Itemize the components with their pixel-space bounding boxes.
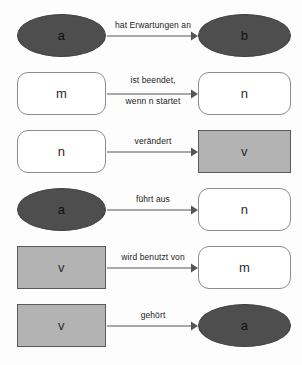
relationship-arrow: gehört [107, 300, 199, 358]
relationship-arrow: ist beendet,wenn n startet [107, 68, 199, 126]
node-label: b [241, 29, 249, 42]
actor-node-target[interactable]: b [198, 14, 291, 57]
relationship-row: mnist beendet,wenn n startet [0, 68, 302, 126]
node-label: a [58, 203, 66, 216]
data-node-target[interactable]: v [198, 130, 291, 173]
node-label: n [241, 203, 249, 216]
relationship-arrow: wird benutzt von [107, 242, 199, 300]
edge-label: führt aus [99, 194, 207, 204]
process-node-target[interactable]: m [198, 246, 291, 289]
edge-label: gehört [99, 310, 207, 320]
edge-label-line-1: ist beendet, [99, 75, 207, 85]
actor-node-source[interactable]: a [17, 14, 106, 57]
actor-node-target[interactable]: a [198, 304, 291, 347]
arrow-icon [107, 300, 199, 358]
relationship-arrow: hat Erwartungen an [107, 10, 199, 68]
data-node-source[interactable]: v [17, 304, 106, 347]
edge-label: verändert [99, 136, 207, 146]
relationship-row: vmwird benutzt von [0, 242, 302, 300]
edge-label-line-2: wenn n startet [99, 96, 207, 106]
relationship-row: vagehört [0, 300, 302, 358]
node-label: v [241, 145, 248, 158]
relationship-row: anführt aus [0, 184, 302, 242]
arrow-icon [107, 126, 199, 184]
node-label: n [241, 87, 249, 100]
actor-node-source[interactable]: a [17, 188, 106, 231]
process-node-source[interactable]: m [17, 72, 106, 115]
node-label: a [58, 29, 66, 42]
arrow-icon [107, 242, 199, 300]
relationship-row: nvverändert [0, 126, 302, 184]
edge-label: wird benutzt von [99, 252, 207, 262]
process-node-target[interactable]: n [198, 188, 291, 231]
relationship-diagram: abhat Erwartungen anmnist beendet,wenn n… [0, 0, 302, 365]
process-node-source[interactable]: n [17, 130, 106, 173]
relationship-arrow: führt aus [107, 184, 199, 242]
relationship-arrow: verändert [107, 126, 199, 184]
relationship-row: abhat Erwartungen an [0, 10, 302, 68]
node-label: m [239, 261, 250, 274]
arrow-icon [107, 184, 199, 242]
node-label: v [58, 319, 65, 332]
arrow-icon [107, 10, 199, 68]
process-node-target[interactable]: n [198, 72, 291, 115]
node-label: n [58, 145, 66, 158]
arrow-icon [107, 68, 199, 126]
data-node-source[interactable]: v [17, 246, 106, 289]
node-label: m [56, 87, 67, 100]
node-label: a [241, 319, 249, 332]
node-label: v [58, 261, 65, 274]
edge-label: hat Erwartungen an [99, 20, 207, 30]
